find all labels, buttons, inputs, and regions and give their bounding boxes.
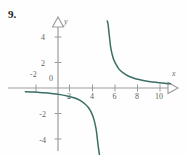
hyperbola-upper-right-branch — [107, 21, 170, 84]
x-tick-labels-group: -2 0 2 4 6 8 10 — [30, 70, 163, 101]
y-tick-labels-group: 4 2 -2 -4 — [39, 33, 46, 145]
x-tick-label: 6 — [113, 92, 117, 101]
x-tick-label: -2 — [30, 70, 37, 79]
x-tick-label: 4 — [90, 92, 94, 101]
figure-container: 9. x y -2 0 2 4 — [0, 0, 187, 155]
coordinate-plot: x y -2 0 2 4 6 8 10 4 2 — [0, 0, 187, 155]
y-tick-label: -4 — [39, 136, 46, 145]
axes-group — [8, 17, 178, 151]
x-tick-label: 10 — [155, 92, 163, 101]
x-axis-label: x — [171, 69, 176, 78]
hyperbola-lower-left-branch — [25, 92, 102, 155]
x-tick-label: 8 — [135, 92, 139, 101]
y-tick-label: 2 — [41, 59, 45, 68]
y-tick-label: 4 — [41, 33, 45, 42]
y-tick-label: -2 — [39, 110, 46, 119]
y-axis-arrowhead-icon — [53, 17, 64, 27]
y-axis-label: y — [63, 17, 68, 26]
origin-label: 0 — [49, 74, 53, 83]
